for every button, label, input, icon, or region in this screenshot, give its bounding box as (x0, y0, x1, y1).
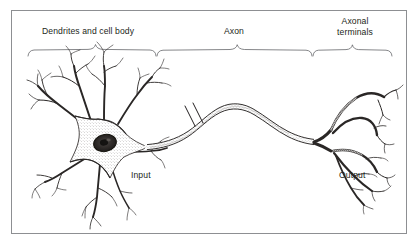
label-axonal-terminals-line2: terminals (337, 27, 373, 37)
brace-axonal-terminals (313, 45, 392, 56)
axon (147, 103, 314, 150)
brace-dendrites-and-cell-body (28, 45, 156, 57)
label-dendrites-and-cell-body: Dendrites and cell body (42, 26, 134, 36)
brace-axon (157, 45, 312, 56)
label-input: Input (131, 170, 151, 180)
label-axonal-terminals-line1: Axonal (342, 16, 369, 26)
label-axonal-terminals: Axonalterminals (330, 16, 380, 37)
label-axon: Axon (224, 26, 244, 36)
label-output: Output (339, 170, 365, 180)
neuron-figure: Dendrites and cell body Axon Axonaltermi… (0, 0, 419, 243)
axonal-terminal-group (314, 85, 403, 214)
soma-cell-body (70, 116, 148, 178)
